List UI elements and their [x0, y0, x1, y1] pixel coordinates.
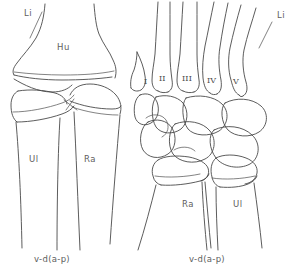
distal-ulna-epiphysis-left	[211, 158, 220, 187]
carpal-accessory-overlap	[146, 115, 168, 137]
distal-radius-epiphysis-left	[152, 160, 161, 185]
left-projection-label: v-d(a-p)	[34, 254, 70, 264]
metacarpal-5-shaft-right	[243, 8, 256, 96]
metacarpal-2-shaft-right	[168, 2, 172, 92]
metacarpal-label-4: IV	[207, 76, 216, 85]
carpal-bone-radial	[141, 120, 176, 157]
left-limb-axis-label: Li	[24, 8, 32, 18]
metacarpal-3-shaft-right	[194, 2, 199, 92]
humerus-outline-lateral	[94, 4, 116, 78]
left-radius-label: Ra	[84, 154, 96, 164]
ulna-shaft-medial-right	[254, 183, 262, 248]
metacarpal-1-proximal	[131, 52, 137, 88]
metacarpal-2-base	[158, 91, 168, 93]
figure-canvas: Li Hu Ul Ra v-d(a-p) Li Ra Ul v-d(a-p) I…	[0, 0, 304, 276]
right-radius-label: Ra	[182, 199, 194, 209]
right-limb-axis-label: Li	[277, 10, 285, 20]
ulna-shaft-lateral-right	[216, 187, 218, 250]
ulna-shaft-medial	[57, 118, 60, 250]
limb-axis-line-right	[259, 22, 272, 48]
metacarpal-4-shaft-right	[217, 3, 228, 94]
ulna-olecranon-outline	[11, 91, 18, 122]
radius-head-outline	[70, 84, 121, 114]
left-panel-drawing	[11, 4, 121, 250]
metacarpal-2-shaft-left	[152, 2, 158, 91]
radius-shaft-medial	[74, 112, 80, 250]
right-projection-label: v-d(a-p)	[189, 254, 225, 264]
metacarpal-label-2: II	[159, 74, 166, 83]
ulna-olecranon-top	[18, 90, 67, 104]
distal-ulna-physis	[212, 176, 255, 179]
metacarpal-4-base	[210, 93, 217, 95]
left-ulna-label: Ul	[29, 154, 39, 164]
metacarpal-5-base	[239, 95, 243, 97]
carpal-bone-c3	[183, 96, 227, 135]
left-humerus-label: Hu	[57, 42, 70, 52]
anatomical-figure: Li Hu Ul Ra v-d(a-p) Li Ra Ul v-d(a-p) I…	[0, 0, 304, 276]
metacarpal-label-3: III	[182, 74, 192, 83]
metacarpal-3-base	[183, 91, 194, 93]
ulna-shaft-lateral	[16, 122, 22, 248]
radius-head-distal	[70, 101, 121, 109]
humerus-condyle-distal	[14, 75, 112, 80]
metacarpal-label-5: V	[232, 77, 239, 86]
radius-shaft-lateral	[110, 115, 120, 244]
distal-radius-physis	[155, 174, 200, 177]
radius-shaft-lateral-right	[138, 185, 156, 250]
carpal-bone-c4-accessory	[222, 99, 267, 136]
ulna-olecranon-bottom	[17, 106, 74, 122]
right-ulna-label: Ul	[233, 199, 243, 209]
carpal-sesamoid-overlap	[174, 147, 195, 151]
distal-ulna-epiphysis	[216, 155, 257, 184]
humerus-trochlear-ridge	[14, 71, 114, 75]
right-panel-drawing	[131, 2, 272, 250]
metacarpal-label-1: I	[144, 77, 147, 86]
ulna-trochlear-notch	[13, 95, 74, 112]
